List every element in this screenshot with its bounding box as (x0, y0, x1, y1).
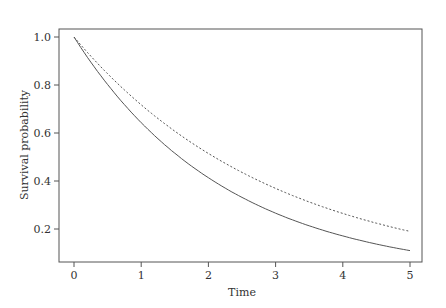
series-lines (74, 37, 410, 251)
y-axis-label: Survival probability (18, 89, 31, 200)
x-tick-label: 1 (138, 269, 145, 282)
x-axis-label: Time (228, 286, 256, 299)
series-dashed-line (74, 37, 410, 231)
y-tick-label: 0.8 (34, 79, 52, 92)
x-axis: 012345 (71, 262, 414, 282)
x-tick-label: 5 (407, 269, 414, 282)
y-tick-label: 0.6 (34, 127, 52, 140)
series-solid-line (74, 37, 410, 251)
x-tick-label: 2 (205, 269, 212, 282)
x-tick-label: 3 (272, 269, 279, 282)
plot-frame (59, 29, 422, 262)
y-tick-label: 1.0 (34, 31, 52, 44)
x-tick-label: 4 (339, 269, 346, 282)
plot-border (59, 29, 422, 262)
y-tick-label: 0.4 (34, 175, 52, 188)
x-tick-label: 0 (71, 269, 78, 282)
y-tick-label: 0.2 (34, 223, 52, 236)
y-axis: 0.20.40.60.81.0 (34, 31, 60, 236)
survival-chart: 0.20.40.60.81.0 012345 Time Survival pro… (0, 0, 446, 308)
